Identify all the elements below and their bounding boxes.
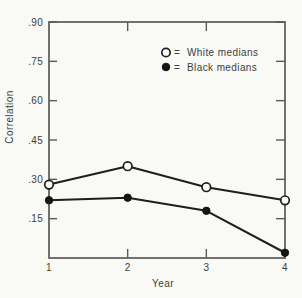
series-line-black-medians [49,198,285,253]
data-point-white-medians-year-3 [202,183,211,192]
series-line-white-medians [49,166,285,200]
legend-filled-circle-icon [162,63,170,71]
correlation-by-year-chart: .15.30.45.60.75.901234 Year Correlation … [0,0,302,298]
x-tick-label: 1 [46,262,52,273]
x-tick-label: 4 [282,262,288,273]
legend-black-label: Black medians [187,62,257,73]
x-tick-label: 3 [203,262,209,273]
data-point-white-medians-year-2 [123,162,132,171]
data-point-white-medians-year-4 [281,196,290,205]
x-axis-title: Year [152,278,174,289]
data-point-black-medians-year-2 [124,194,131,201]
y-axis-title: Correlation [4,90,15,143]
y-tick-label: .75 [28,56,43,67]
x-tick-label: 2 [125,262,131,273]
line-chart-canvas: .15.30.45.60.75.901234 Year Correlation … [0,0,302,298]
legend-white-equals: = [174,47,180,58]
legend-open-circle-icon [162,48,170,56]
data-point-black-medians-year-1 [45,197,52,204]
legend-white-label: White medians [187,47,258,58]
y-tick-label: .30 [28,174,43,185]
y-tick-label: .45 [28,135,43,146]
data-point-white-medians-year-1 [45,180,54,189]
y-tick-label: .60 [28,95,43,106]
legend: = White medians = Black medians [162,47,259,73]
data-point-black-medians-year-3 [203,207,210,214]
legend-black-equals: = [174,62,180,73]
y-tick-label: .90 [28,17,43,28]
y-tick-label: .15 [28,213,43,224]
data-point-black-medians-year-4 [281,249,288,256]
